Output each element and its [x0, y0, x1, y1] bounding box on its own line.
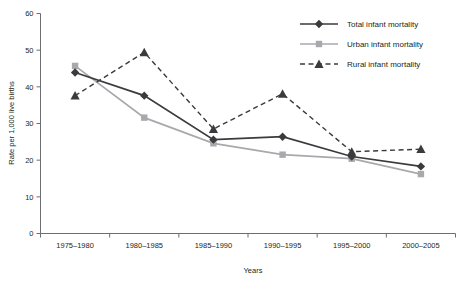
x-tick-label: 1980–1985 [125, 241, 163, 250]
y-tick-label: 30 [25, 119, 33, 128]
y-tick-label: 60 [25, 9, 33, 18]
y-tick-label: 20 [25, 156, 33, 165]
x-tick-label: 1990–1995 [264, 241, 302, 250]
infant-mortality-line-chart: 0102030405060 1975–19801980–19851985–199… [0, 0, 466, 282]
data-point-marker [141, 114, 147, 120]
y-tick-label: 40 [25, 83, 33, 92]
data-point-marker [140, 91, 148, 99]
y-axis-title: Rate per 1,000 live births [7, 81, 16, 165]
data-point-marker [71, 68, 79, 76]
data-point-marker [279, 151, 285, 157]
chart-canvas: 0102030405060 1975–19801980–19851985–199… [0, 0, 466, 282]
data-point-marker [72, 63, 78, 69]
legend-label: Urban infant mortality [347, 40, 423, 49]
data-point-marker [140, 48, 149, 57]
x-axis: 1975–19801980–19851985–19901990–19951995… [41, 234, 456, 250]
data-point-marker [278, 133, 286, 141]
x-tick-label: 1995–2000 [333, 241, 371, 250]
legend-marker [316, 41, 322, 47]
y-axis: 0102030405060 [25, 9, 40, 238]
x-tick-label: 2000–2005 [402, 241, 440, 250]
data-point-marker [418, 171, 424, 177]
series-line [75, 73, 421, 167]
y-tick-label: 10 [25, 193, 33, 202]
series-line [75, 66, 421, 174]
data-point-marker [347, 147, 356, 156]
x-tick-label: 1985–1990 [195, 241, 233, 250]
legend-label: Rural infant mortality [347, 60, 420, 69]
legend-marker [314, 59, 323, 68]
y-tick-label: 0 [29, 229, 33, 238]
x-tick-label: 1975–1980 [56, 241, 94, 250]
legend-marker [315, 20, 323, 28]
data-point-marker [70, 91, 79, 100]
data-point-marker [278, 89, 287, 98]
y-tick-label: 50 [25, 46, 33, 55]
chart-legend: Total infant mortalityUrban infant morta… [300, 20, 423, 69]
data-point-marker [417, 162, 425, 170]
x-axis-title: Years [244, 266, 263, 275]
legend-label: Total infant mortality [347, 20, 418, 29]
